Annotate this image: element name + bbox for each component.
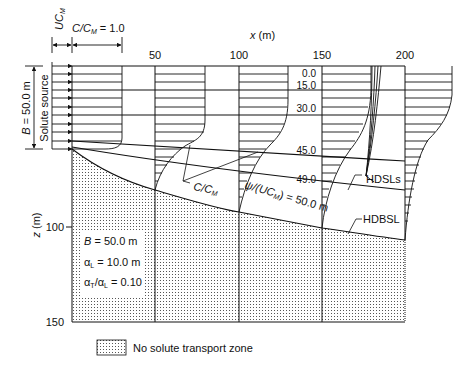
source-width-label: B = 50.0 m (20, 81, 32, 135)
streamline-label-15: 15.0 (297, 80, 317, 91)
x-tick-100: 100 (230, 49, 248, 61)
x-tick-200: 200 (396, 49, 414, 61)
ccm-annotation: C/CM (192, 180, 219, 197)
hdbsl-label: HDBSL (363, 213, 400, 225)
source-velocity-arrows (52, 62, 72, 149)
x-tick-150: 150 (313, 49, 331, 61)
z-axis-label: z (m) (30, 212, 42, 238)
x-axis-label: x (m) (249, 29, 275, 41)
ccm-leaders (183, 145, 258, 183)
z-tick-150: 150 (46, 316, 64, 328)
streamline-label-0: 0.0 (302, 68, 316, 79)
conc-ref-label: C/CM = 1.0 (72, 22, 125, 35)
streamline-label-49: 49.0 (297, 174, 317, 185)
x-tick-50: 50 (149, 49, 161, 61)
param-b: B = 50.0 m (84, 235, 138, 247)
velocity-label: UCM (53, 8, 66, 30)
hdsl-lines (366, 66, 381, 182)
profile-x0 (72, 66, 122, 149)
top-dimension (52, 37, 122, 53)
hdsls-label: HDSLs (366, 173, 401, 185)
figure: UCM C/CM = 1.0 x (m) 50 100 150 200 B = … (0, 0, 467, 368)
psi-annotation: ψ/(UCM) = 50.0 m (243, 178, 330, 214)
profile-x200 (405, 66, 452, 240)
streamline-label-30: 30.0 (297, 103, 317, 114)
profile-x50 (155, 66, 205, 190)
legend-label: No solute transport zone (133, 342, 253, 354)
streamline-label-45: 45.0 (297, 145, 317, 156)
hdsls-leader (348, 175, 362, 190)
source-name-label: Solute source (38, 74, 50, 141)
legend-swatch (97, 340, 126, 355)
z-tick-100: 100 (46, 221, 64, 233)
